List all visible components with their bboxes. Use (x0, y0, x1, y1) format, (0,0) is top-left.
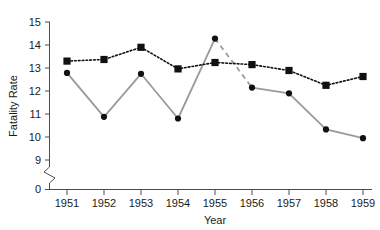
y-tick-label-14: 14 (29, 39, 41, 51)
y-tick-label-11: 11 (30, 108, 41, 120)
y-tick-label-0: 0 (35, 183, 41, 195)
y-tick-label-9: 9 (35, 154, 41, 166)
y-tick-label-10: 10 (29, 131, 41, 143)
data-point-square-1958 (322, 82, 329, 89)
x-tick-label-1956: 1956 (240, 197, 264, 209)
data-point-square-1956 (248, 61, 255, 68)
y-tick-label-15: 15 (29, 16, 41, 28)
data-point-circle-1952 (101, 114, 107, 120)
data-point-circle-1957 (286, 90, 292, 96)
x-tick-label-1954: 1954 (166, 197, 190, 209)
x-tick-label-1957: 1957 (277, 197, 301, 209)
y-tick-label-13: 13 (29, 62, 41, 74)
data-point-circle-1951 (64, 70, 70, 76)
data-point-square-1957 (285, 67, 292, 74)
x-tick-label-1953: 1953 (129, 197, 153, 209)
data-point-square-1955 (211, 59, 218, 66)
y-tick-label-12: 12 (29, 85, 41, 97)
x-tick-label-1958: 1958 (314, 197, 338, 209)
y-axis-title: Fatality Rate (7, 75, 19, 137)
x-tick-label-1952: 1952 (92, 197, 116, 209)
line-chart-plot: 15 14 13 12 11 10 9 0 1951 1952 1953 195… (0, 0, 380, 230)
data-point-circle-1956 (249, 85, 255, 91)
x-tick-label-1951: 1951 (55, 197, 79, 209)
data-point-circle-1953 (138, 71, 144, 77)
x-axis-title: Year (204, 214, 227, 226)
series-solid-circle-path-right (252, 88, 363, 139)
chart-figure: 15 14 13 12 11 10 9 0 1951 1952 1953 195… (0, 0, 380, 230)
x-tick-label-1955: 1955 (203, 197, 227, 209)
series-dotted-square-path (67, 47, 363, 85)
data-point-circle-1955 (212, 36, 218, 42)
series-solid-circle-group (64, 36, 366, 142)
data-point-circle-1959 (360, 135, 366, 141)
data-point-square-1959 (359, 73, 366, 80)
data-point-square-1954 (174, 65, 181, 72)
data-point-circle-1958 (323, 126, 329, 132)
x-tick-label-1959: 1959 (351, 197, 375, 209)
data-point-square-1952 (100, 56, 107, 63)
x-tick-marks (67, 190, 363, 195)
data-point-square-1953 (137, 44, 144, 51)
y-axis-break-zigzag (44, 160, 55, 190)
series-dotted-square-group (63, 44, 366, 89)
data-point-circle-1954 (175, 115, 181, 121)
data-point-square-1951 (63, 58, 70, 65)
